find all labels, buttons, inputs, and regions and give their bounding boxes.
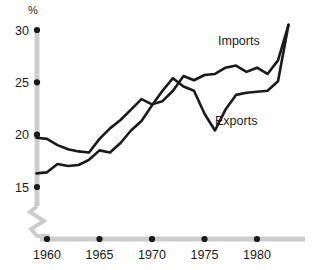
x-tick-label: 1975 [191, 248, 219, 262]
x-tick-label: 1970 [138, 248, 166, 262]
y-tick-dot [34, 79, 40, 85]
y-tick-dot [34, 27, 40, 33]
y-axis-unit-label: % [28, 4, 38, 16]
x-tick-dot [44, 236, 50, 242]
x-tick-label: 1960 [33, 248, 61, 262]
series-label-imports: Imports [218, 34, 260, 48]
y-tick-label: 25 [15, 76, 29, 90]
y-tick-label: 20 [15, 128, 29, 142]
x-tick-dot [254, 236, 260, 242]
x-tick-label: 1965 [86, 248, 114, 262]
x-tick-dot [96, 236, 102, 242]
y-tick-label: 15 [15, 181, 29, 195]
chart-container: 15202530 19601965197019751980 % Imports … [0, 0, 315, 270]
axis-break-symbol [30, 206, 50, 236]
x-tick-dot [201, 236, 207, 242]
x-tick-dot [149, 236, 155, 242]
y-tick-dot [34, 184, 40, 190]
line-chart: 15202530 19601965197019751980 % Imports … [0, 0, 315, 270]
x-tick-label: 1980 [243, 248, 271, 262]
axes [30, 28, 305, 239]
y-tick-label: 30 [15, 24, 29, 38]
series-label-exports: Exports [215, 114, 257, 128]
